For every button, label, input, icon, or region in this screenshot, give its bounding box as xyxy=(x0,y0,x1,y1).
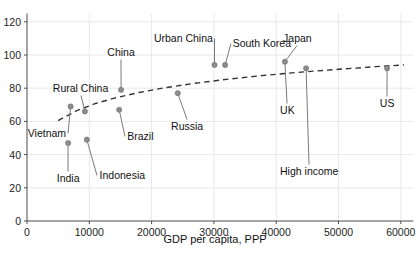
leader-line-russia xyxy=(178,93,187,119)
x-tick-label: 20000 xyxy=(137,227,166,238)
trend-line-group xyxy=(58,65,404,121)
x-tick-label: 60000 xyxy=(386,227,415,238)
point-label-brazil: Brazil xyxy=(127,131,153,142)
point-label-china: China xyxy=(107,47,134,58)
data-point-rural-china xyxy=(82,109,87,114)
point-label-us: US xyxy=(380,98,395,109)
leader-line-uk xyxy=(285,62,287,104)
y-tick-label: 60 xyxy=(0,116,21,127)
gridlines-group xyxy=(27,14,413,222)
data-point-urban-china xyxy=(212,62,217,67)
point-label-russia: Russia xyxy=(171,121,203,132)
data-point-brazil xyxy=(117,107,122,112)
data-point-us xyxy=(384,66,389,71)
trend-line xyxy=(58,65,404,121)
data-point-south-korea xyxy=(223,62,228,67)
x-tick-label: 0 xyxy=(24,227,30,238)
data-point-russia xyxy=(175,91,180,96)
data-point-high-income xyxy=(304,66,309,71)
point-label-japan: Japan xyxy=(283,33,312,44)
leader-line-high-income xyxy=(306,68,309,164)
leader-line-indonesia xyxy=(87,140,97,176)
leader-line-vietnam xyxy=(68,106,71,133)
data-point-japan xyxy=(282,59,287,64)
x-axis-title: GDP per capita, PPP xyxy=(163,233,266,245)
scatter-chart-figure: 020406080100120 010000200003000040000500… xyxy=(0,0,417,253)
point-label-vietnam: Vietnam xyxy=(28,128,66,139)
y-tick-label: 80 xyxy=(0,83,21,94)
point-label-urban-china: Urban China xyxy=(154,33,213,44)
y-tick-label: 0 xyxy=(0,216,21,227)
y-tick-label: 120 xyxy=(0,17,21,28)
data-point-india xyxy=(66,140,71,145)
y-tick-label: 20 xyxy=(0,183,21,194)
data-point-indonesia xyxy=(84,137,89,142)
y-tick-label: 100 xyxy=(0,50,21,61)
point-label-rural-china: Rural China xyxy=(53,83,108,94)
data-point-china xyxy=(118,87,123,92)
data-point-vietnam xyxy=(68,104,73,109)
point-label-indonesia: Indonesia xyxy=(100,170,146,181)
data-points-group xyxy=(66,59,390,146)
point-label-uk: UK xyxy=(280,105,295,116)
axis-lines-group xyxy=(24,14,413,225)
point-label-india: India xyxy=(57,173,80,184)
leader-line-brazil xyxy=(119,110,125,137)
x-tick-label: 10000 xyxy=(75,227,104,238)
leader-line-south-korea xyxy=(225,44,231,65)
point-label-high-income: High income xyxy=(280,166,338,177)
y-tick-label: 40 xyxy=(0,149,21,160)
x-tick-label: 50000 xyxy=(324,227,353,238)
